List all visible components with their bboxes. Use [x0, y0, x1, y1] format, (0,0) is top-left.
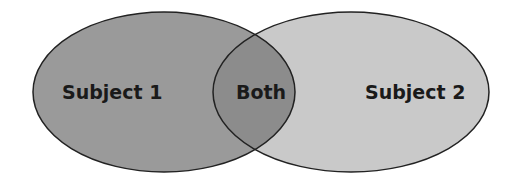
subject-1-label: Subject 1 — [62, 81, 162, 103]
venn-diagram: Subject 1 Both Subject 2 — [0, 0, 513, 183]
subject-2-label: Subject 2 — [365, 81, 465, 103]
both-label: Both — [236, 81, 286, 103]
